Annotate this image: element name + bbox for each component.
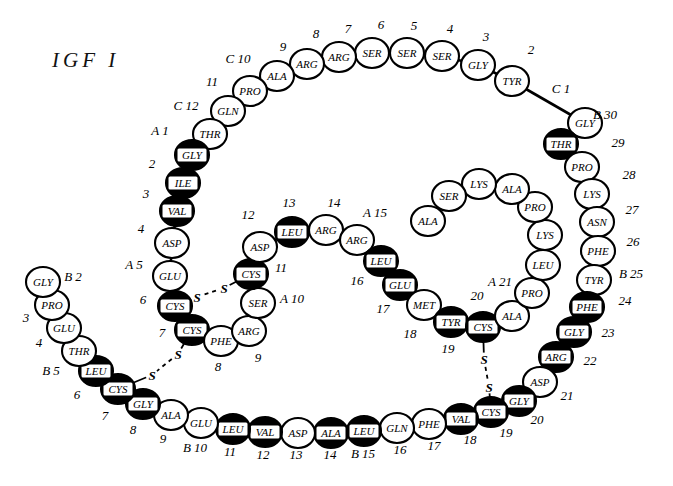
residue-code: ASP [530,376,550,388]
residue-code: PRO [570,161,592,173]
residue-A11[interactable]: CYS [234,259,268,289]
position-label-C2: 2 [528,42,535,57]
residue-A4[interactable]: ASP [155,228,189,258]
residue-A5[interactable]: GLU [153,261,187,291]
position-label-B11: 11 [224,444,236,459]
residue-B16[interactable]: GLN [380,413,414,443]
position-label-A16: 16 [351,273,365,288]
residue-A10[interactable]: SER [241,288,275,318]
residue-code: ALA [160,409,181,421]
residue-D5[interactable]: ALA [495,174,529,204]
residue-code: LEU [85,365,108,377]
position-label-A7: 7 [159,325,166,340]
residue-B13[interactable]: ASP [281,418,315,448]
residue-A19[interactable]: TYR [434,307,468,337]
residue-D7[interactable]: SER [432,181,466,211]
residue-code: ARG [544,351,566,363]
residue-C8[interactable]: ARG [290,49,324,79]
residue-code: LEU [222,423,245,435]
residue-B17[interactable]: PHE [412,409,446,439]
position-label-C12: C 12 [174,98,199,113]
residue-B10[interactable]: GLU [184,408,218,438]
residue-code: PHE [209,335,232,347]
position-label-A8: 8 [215,359,222,374]
residue-B27[interactable]: ASN [580,207,614,237]
position-label-B21: 21 [561,388,574,403]
residue-B11[interactable]: LEU [216,414,250,444]
position-label-B19: 19 [500,425,514,440]
residue-B12[interactable]: VAL [248,417,282,447]
residue-code: LYS [582,188,601,200]
position-label-C6: 6 [378,17,385,32]
position-label-B8: 8 [130,422,137,437]
residue-C7[interactable]: ARG [322,42,356,72]
residue-code: ALA [266,70,287,82]
residue-A14[interactable]: ARG [309,215,343,245]
position-label-B18: 18 [464,432,478,447]
position-label-A6: 6 [140,292,147,307]
residue-code: ARG [314,224,336,236]
position-label-A9: 9 [255,350,262,365]
position-label-A4: 4 [138,221,145,236]
residue-D6[interactable]: LYS [462,169,496,199]
residue-C4[interactable]: SER [425,41,459,71]
residue-A9[interactable]: ARG [232,316,266,346]
position-label-B24: 24 [619,293,633,308]
residue-code: GLY [133,398,155,410]
position-label-B16: 16 [394,442,408,457]
residue-D8[interactable]: ALA [411,206,445,236]
residue-code: ALA [501,310,522,322]
residue-code: SER [398,47,417,59]
position-label-B12: 12 [257,447,271,462]
position-label-B7: 7 [102,408,109,423]
residue-C3[interactable]: GLY [461,50,495,80]
residue-C6[interactable]: SER [355,38,389,68]
position-label-B25: B 25 [619,266,644,281]
residue-B26[interactable]: PHE [581,236,615,266]
residue-C5[interactable]: SER [390,38,424,68]
position-label-A20: 20 [471,288,485,303]
residue-code: THR [551,138,572,150]
position-label-B30: B 30 [593,107,618,122]
residue-code: LEU [281,226,304,238]
residue-A1[interactable]: GLY [175,140,209,170]
residue-C2[interactable]: TYR [495,66,529,96]
position-label-A19: 19 [442,341,456,356]
residue-code: SER [363,47,382,59]
residue-D3[interactable]: LYS [528,220,562,250]
residue-B2[interactable]: GLY [26,267,60,297]
position-label-C4: 4 [447,21,454,36]
residue-B18[interactable]: VAL [444,404,478,434]
residue-B28[interactable]: LYS [575,179,609,209]
residue-code: VAL [256,426,275,438]
position-label-B13: 13 [290,447,304,462]
disulfide-s-label: S [174,347,181,362]
residue-A12[interactable]: ASP [243,232,277,262]
residue-code: PRO [520,287,542,299]
residue-code: LYS [535,229,554,241]
residue-D2[interactable]: LEU [526,250,560,280]
position-label-B10: B 10 [183,440,208,455]
residue-B15[interactable]: LEU [347,416,381,446]
residue-B25[interactable]: TYR [577,265,611,295]
residue-A3[interactable]: VAL [160,196,194,226]
residue-code: ASP [162,237,182,249]
position-label-C11: 11 [206,74,218,89]
residue-A13[interactable]: LEU [275,217,309,247]
position-label-C3: 3 [482,29,490,44]
position-label-B14: 14 [324,447,338,462]
residue-code: CYS [482,406,501,418]
residue-B29[interactable]: PRO [565,152,599,182]
residue-A2[interactable]: ILE [166,168,200,198]
position-label-B20: 20 [531,412,545,427]
residue-B19[interactable]: CYS [474,397,508,427]
position-label-B6: 6 [74,387,81,402]
residue-B14[interactable]: ALA [314,418,348,448]
residue-D1[interactable]: PRO [515,278,549,308]
residue-code: ASN [586,216,607,228]
residue-code: THR [200,128,221,140]
position-label-A21: A 21 [487,274,512,289]
position-label-B2: B 2 [64,269,82,284]
position-label-B23: 23 [602,325,616,340]
residue-code: VAL [168,205,187,217]
